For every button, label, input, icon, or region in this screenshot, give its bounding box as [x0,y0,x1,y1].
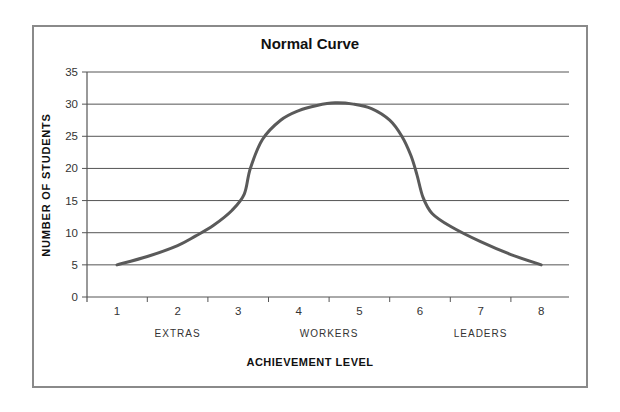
x-axis-ticks: 12345678 [114,297,545,317]
x-tick-label: 1 [114,305,120,317]
group-label-leaders: LEADERS [454,328,508,339]
x-tick-label: 4 [296,305,303,317]
x-tick-label: 3 [235,305,241,317]
y-tick-label: 20 [65,162,78,174]
gridlines [82,72,569,302]
y-tick-label: 25 [65,130,78,142]
group-label-extras: EXTRAS [155,328,201,339]
y-tick-label: 10 [65,227,78,239]
x-tick-label: 6 [417,305,423,317]
y-axis-ticks: 05101520253035 [65,66,78,303]
plot-area: 05101520253035 12345678 EXTRASWORKERSLEA… [0,0,620,412]
y-tick-label: 5 [72,259,78,271]
normal-curve-line [117,103,541,265]
y-tick-label: 15 [65,195,78,207]
group-label-workers: WORKERS [300,328,359,339]
y-tick-label: 35 [65,66,78,78]
x-tick-label: 7 [477,305,483,317]
x-tick-label: 2 [174,305,180,317]
y-tick-label: 0 [72,291,78,303]
y-tick-label: 30 [65,98,78,110]
group-labels: EXTRASWORKERSLEADERS [155,328,508,339]
x-tick-label: 5 [356,305,362,317]
x-tick-label: 8 [538,305,544,317]
